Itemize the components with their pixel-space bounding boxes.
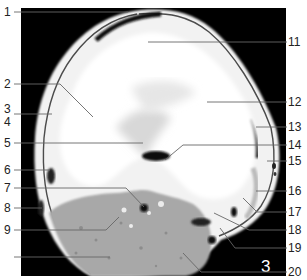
label-16: 16 bbox=[288, 185, 301, 197]
label-8: 8 bbox=[4, 202, 11, 214]
label-2: 2 bbox=[4, 78, 11, 90]
panel-number: 3 bbox=[261, 258, 270, 275]
label-18: 18 bbox=[288, 224, 301, 236]
label-5: 5 bbox=[4, 137, 11, 149]
label-7: 7 bbox=[4, 182, 11, 194]
label-20: 20 bbox=[288, 266, 301, 278]
label-13: 13 bbox=[288, 121, 301, 133]
label-19: 19 bbox=[288, 242, 301, 254]
label-9: 9 bbox=[4, 224, 11, 236]
label-15: 15 bbox=[288, 155, 301, 167]
mri-scan-image: 3 bbox=[21, 8, 286, 276]
label-3: 3 bbox=[4, 103, 11, 115]
label-6: 6 bbox=[4, 164, 11, 176]
mri-scan-graphic bbox=[21, 8, 286, 276]
label-4: 4 bbox=[4, 116, 11, 128]
label-12: 12 bbox=[288, 96, 301, 108]
label-11: 11 bbox=[288, 36, 300, 48]
label-14: 14 bbox=[288, 139, 301, 151]
label-17: 17 bbox=[288, 206, 301, 218]
label-1: 1 bbox=[4, 6, 11, 18]
anatomy-figure: 3 bbox=[0, 0, 307, 280]
